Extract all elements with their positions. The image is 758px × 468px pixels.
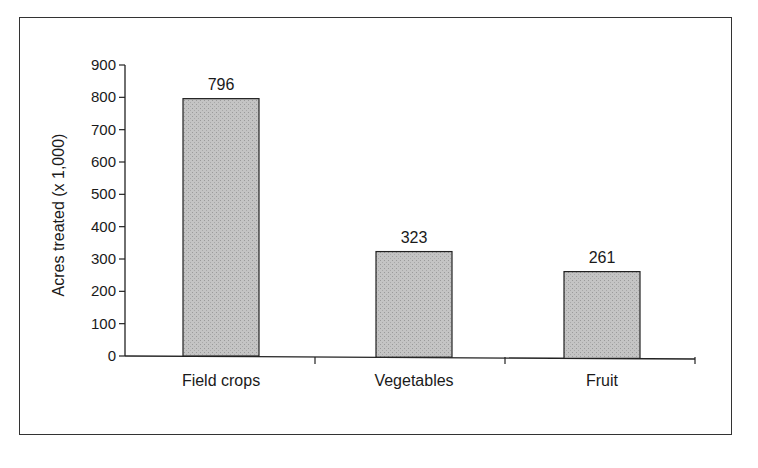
x-category-label: Fruit <box>586 372 619 389</box>
y-tick-label: 300 <box>91 250 116 267</box>
y-axis: 0100200300400500600700800900 <box>91 56 125 364</box>
bar <box>183 99 259 356</box>
y-axis-title: Acres treated (x 1,000) <box>50 134 67 297</box>
bar-value-label: 796 <box>208 76 235 93</box>
y-tick-label: 700 <box>91 121 116 138</box>
bars: 796Field crops323Vegetables261Fruit <box>182 76 640 389</box>
bar-value-label: 261 <box>589 249 616 266</box>
bar-chart: 0100200300400500600700800900 796Field cr… <box>0 0 758 468</box>
bar-value-label: 323 <box>401 229 428 246</box>
y-tick-label: 500 <box>91 185 116 202</box>
y-tick-label: 600 <box>91 153 116 170</box>
x-category-label: Vegetables <box>374 372 453 389</box>
y-tick-label: 0 <box>108 347 116 364</box>
x-category-label: Field crops <box>182 372 260 389</box>
bar <box>564 272 640 359</box>
y-tick-label: 200 <box>91 282 116 299</box>
y-tick-label: 400 <box>91 218 116 235</box>
y-tick-label: 100 <box>91 315 116 332</box>
bar <box>376 252 452 358</box>
y-tick-label: 900 <box>91 56 116 73</box>
y-tick-label: 800 <box>91 88 116 105</box>
